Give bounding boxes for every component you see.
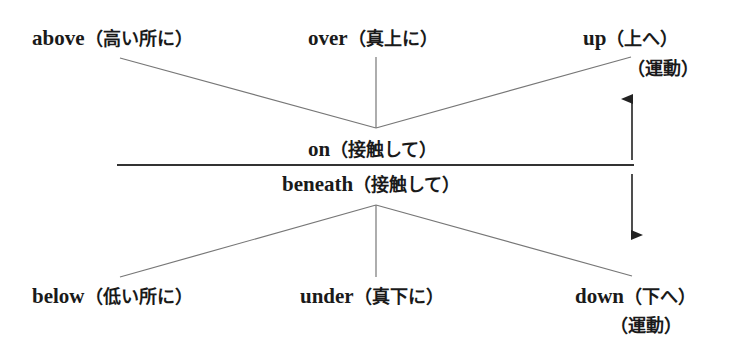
gloss-down: （下へ） — [624, 287, 696, 307]
gloss-under: （真下に） — [354, 287, 444, 307]
gloss-on: （接触して） — [330, 140, 437, 160]
label-under: under（真下に） — [300, 285, 444, 308]
label-over: over（真上に） — [308, 27, 438, 50]
gloss-over: （真上に） — [348, 29, 438, 49]
note-down-text: （運動） — [610, 316, 682, 336]
gloss-beneath: （接触して） — [353, 175, 460, 195]
line-below — [120, 205, 376, 277]
gloss-up: （上へ） — [606, 29, 678, 49]
label-on: on（接触して） — [308, 138, 437, 161]
word-over: over — [308, 26, 348, 50]
note-up-text: （運動） — [627, 59, 699, 79]
label-beneath: beneath（接触して） — [282, 173, 460, 196]
label-up: up（上へ） — [583, 27, 678, 50]
line-up — [376, 57, 631, 128]
label-above: above（高い所に） — [32, 27, 193, 50]
label-below: below（低い所に） — [32, 285, 193, 308]
word-below: below — [32, 284, 85, 308]
line-down — [376, 205, 632, 276]
label-down: down（下へ） — [575, 285, 696, 308]
note-up: （運動） — [627, 58, 699, 80]
word-above: above — [32, 26, 85, 50]
gloss-above: （高い所に） — [85, 29, 193, 49]
word-down: down — [575, 284, 624, 308]
line-above — [120, 58, 376, 128]
gloss-below: （低い所に） — [85, 287, 193, 307]
word-up: up — [583, 26, 606, 50]
note-down: （運動） — [610, 315, 682, 337]
word-on: on — [308, 137, 330, 161]
word-under: under — [300, 284, 354, 308]
word-beneath: beneath — [282, 172, 353, 196]
